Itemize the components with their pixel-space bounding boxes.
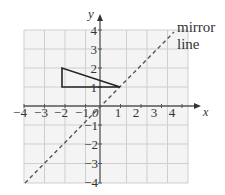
y-axis-arrow-icon bbox=[97, 14, 103, 21]
y-tick-label: 3 bbox=[91, 42, 98, 57]
x-tick-label: 3 bbox=[151, 105, 158, 120]
x-tick-label: 4 bbox=[169, 105, 176, 120]
x-tick-label: −3 bbox=[34, 105, 48, 120]
x-tick-label: 2 bbox=[133, 105, 140, 120]
coordinate-grid-diagram: y x −4 −3 −2 −1 1 2 3 4 4 3 2 1 −1 −2 −3… bbox=[0, 0, 225, 195]
y-tick-label: −1 bbox=[84, 118, 98, 133]
y-tick-label: 2 bbox=[91, 61, 98, 76]
y-axis-label: y bbox=[86, 6, 94, 21]
y-tick-label: −2 bbox=[84, 137, 98, 152]
y-tick-label: 4 bbox=[91, 23, 98, 38]
x-tick-label: −4 bbox=[13, 105, 27, 120]
mirror-label-line1: mirror bbox=[177, 19, 215, 35]
x-tick-label: −2 bbox=[54, 105, 68, 120]
mirror-label-line2: line bbox=[177, 36, 200, 52]
origin-label: 0 bbox=[92, 105, 99, 120]
y-tick-label: 1 bbox=[91, 80, 98, 95]
y-tick-label: −3 bbox=[84, 156, 98, 171]
x-axis-label: x bbox=[202, 105, 209, 119]
x-tick-label: 1 bbox=[115, 105, 122, 120]
y-tick-label: −4 bbox=[84, 175, 98, 190]
x-axis-arrow-icon bbox=[194, 103, 201, 109]
